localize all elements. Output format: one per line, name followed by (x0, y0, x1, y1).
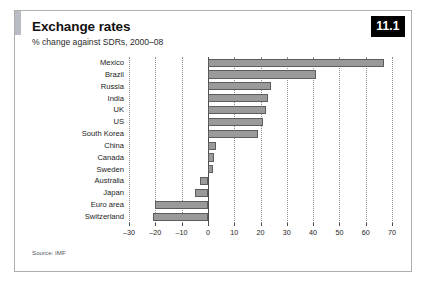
category-label: Australia (32, 175, 124, 187)
axis-tick-label: 60 (362, 228, 370, 237)
category-label: China (32, 140, 124, 152)
bar-row: Switzerland (32, 211, 392, 223)
bar (208, 106, 266, 114)
bar (208, 130, 258, 138)
bar-row: India (32, 93, 392, 105)
chart-title: Exchange rates (32, 19, 130, 34)
bar (208, 165, 213, 173)
chart-subtitle: % change against SDRs, 2000–08 (32, 37, 163, 47)
axis-tick-label: 50 (335, 228, 343, 237)
category-label: Brazil (32, 69, 124, 81)
category-label: Russia (32, 81, 124, 93)
axis-tick-label: 10 (230, 228, 238, 237)
axis-tick (313, 223, 314, 226)
bar (208, 94, 268, 102)
bar-rows: MexicoBrazilRussiaIndiaUKUSSouth KoreaCh… (32, 57, 392, 223)
axis-tick (366, 223, 367, 226)
bar-row: Japan (32, 187, 392, 199)
bar-row: South Korea (32, 128, 392, 140)
bar (200, 177, 208, 185)
axis-tick (234, 223, 235, 226)
axis-tick (287, 223, 288, 226)
bar-row: Brazil (32, 69, 392, 81)
source-note: Source: IMF (32, 249, 66, 256)
category-label: UK (32, 104, 124, 116)
axis-tick (129, 223, 130, 226)
axis-tick-label: –10 (176, 228, 188, 237)
axis-tick-label: –20 (149, 228, 161, 237)
category-label: South Korea (32, 128, 124, 140)
axis-tick (261, 223, 262, 226)
axis-tick (208, 223, 209, 226)
chart-figure: 11.1 Exchange rates % change against SDR… (14, 10, 412, 272)
bar-row: Russia (32, 81, 392, 93)
figure-number-badge: 11.1 (371, 16, 405, 37)
bar-row: UK (32, 104, 392, 116)
bar-row: US (32, 116, 392, 128)
axis-tick (155, 223, 156, 226)
x-axis: –30–20–10010203040506070 (129, 223, 392, 243)
axis-tick-label: –30 (123, 228, 135, 237)
bar-row: Australia (32, 175, 392, 187)
axis-tick (339, 223, 340, 226)
bar (208, 153, 215, 161)
category-label: Euro area (32, 199, 124, 211)
plot-area: MexicoBrazilRussiaIndiaUKUSSouth KoreaCh… (32, 57, 392, 242)
bar-row: Euro area (32, 199, 392, 211)
bar (208, 142, 216, 150)
bar (153, 213, 208, 221)
category-label: Japan (32, 187, 124, 199)
bar (208, 59, 384, 67)
category-label: India (32, 93, 124, 105)
axis-tick-label: 0 (206, 228, 210, 237)
category-label: US (32, 116, 124, 128)
gridline (392, 57, 393, 223)
bar (208, 70, 316, 78)
bar-row: Sweden (32, 164, 392, 176)
bar (208, 82, 271, 90)
accent-bar (15, 11, 21, 35)
bar (208, 118, 263, 126)
axis-tick (182, 223, 183, 226)
bar-row: Canada (32, 152, 392, 164)
bar-row: Mexico (32, 57, 392, 69)
category-label: Switzerland (32, 211, 124, 223)
category-label: Canada (32, 152, 124, 164)
bar (155, 201, 208, 209)
axis-tick (392, 223, 393, 226)
bar-row: China (32, 140, 392, 152)
axis-tick-label: 30 (283, 228, 291, 237)
category-label: Mexico (32, 57, 124, 69)
axis-tick-label: 40 (309, 228, 317, 237)
axis-tick-label: 70 (388, 228, 396, 237)
axis-tick-label: 20 (257, 228, 265, 237)
category-label: Sweden (32, 164, 124, 176)
bar (195, 189, 208, 197)
